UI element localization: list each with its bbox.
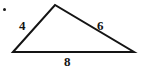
side-label-right: 6 [97,19,104,32]
triangle-outline [13,5,134,52]
side-label-left: 4 [19,19,26,32]
side-label-base: 8 [64,55,71,68]
triangle-figure: 4 6 8 [0,0,141,74]
stray-dot-mark [3,8,6,11]
